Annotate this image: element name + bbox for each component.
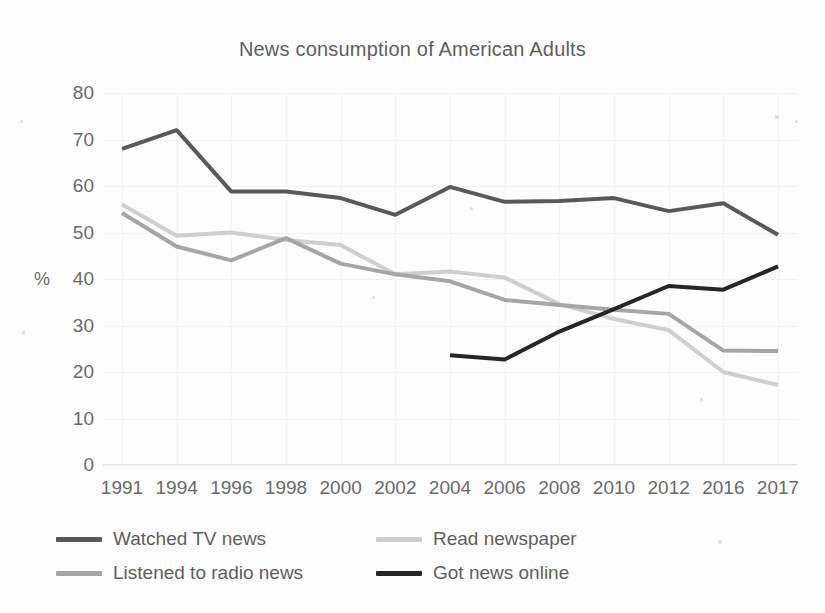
series-line (450, 266, 778, 359)
x-axis-tick: 2004 (429, 477, 471, 499)
legend-item[interactable]: Listened to radio news (56, 562, 376, 584)
x-axis-tick: 1991 (101, 477, 143, 499)
legend-color-swatch (56, 537, 102, 542)
series-line (122, 130, 778, 235)
scan-artifact (718, 540, 722, 544)
legend-item[interactable]: Read newspaper (376, 528, 616, 550)
legend-item[interactable]: Got news online (376, 562, 616, 584)
x-axis-tick: 1996 (210, 477, 252, 499)
y-axis-tick: 20 (34, 361, 94, 383)
x-axis-tick: 2006 (484, 477, 526, 499)
x-axis-tick: 2010 (593, 477, 635, 499)
y-axis-tick: 60 (34, 175, 94, 197)
scan-artifact (795, 120, 798, 123)
y-axis-tick: 80 (34, 82, 94, 104)
y-axis-tick: 0 (34, 454, 94, 476)
y-axis-tick: 70 (34, 129, 94, 151)
x-axis-tick: 2002 (374, 477, 416, 499)
y-axis-tick: 30 (34, 315, 94, 337)
scan-artifact (470, 207, 473, 210)
scan-artifact (700, 398, 703, 401)
legend-item[interactable]: Watched TV news (56, 528, 376, 550)
legend-color-swatch (56, 571, 102, 576)
scan-artifact (775, 115, 779, 119)
series-line (122, 205, 778, 385)
plot-area (103, 93, 797, 465)
x-axis-tick: 2017 (757, 477, 799, 499)
legend-label: Got news online (433, 562, 569, 584)
chart-container: News consumption of American Adults 8070… (0, 0, 825, 613)
scan-artifact (20, 120, 23, 123)
x-axis-tick: 2000 (320, 477, 362, 499)
y-axis-tick: 10 (34, 408, 94, 430)
legend-label: Listened to radio news (113, 562, 303, 584)
legend-color-swatch (376, 537, 422, 542)
x-axis-tick: 2016 (702, 477, 744, 499)
grid-line-horizontal (103, 465, 797, 466)
y-axis-label: % (34, 269, 50, 290)
legend-color-swatch (376, 571, 422, 576)
x-axis-tick: 1994 (156, 477, 198, 499)
legend-label: Watched TV news (113, 528, 266, 550)
x-axis-tick: 2012 (648, 477, 690, 499)
scan-artifact (22, 330, 25, 335)
series-lines (103, 93, 797, 465)
x-axis-tick: 1998 (265, 477, 307, 499)
chart-legend: Watched TV newsRead newspaperListened to… (56, 522, 616, 590)
scan-artifact (372, 296, 375, 299)
y-axis-tick: 50 (34, 222, 94, 244)
legend-label: Read newspaper (433, 528, 577, 550)
x-axis-tick: 2008 (538, 477, 580, 499)
chart-title: News consumption of American Adults (0, 38, 825, 61)
